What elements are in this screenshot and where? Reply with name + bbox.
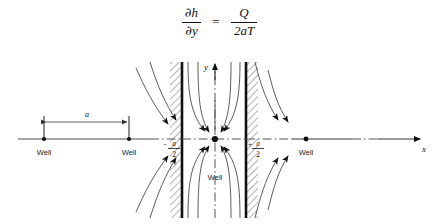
- left-boundary-numerator: a: [172, 139, 176, 148]
- well-right-image-label: Well: [299, 148, 314, 157]
- well-marker-dot: [127, 137, 131, 141]
- well-marker-dot: [42, 137, 46, 141]
- flow-line-right-exterior-upper-1: [255, 62, 278, 120]
- well-marker-dot: [304, 137, 309, 142]
- well-left-inner-label: Well: [122, 148, 137, 157]
- flow-line-right-exterior-lower-2: [268, 156, 288, 210]
- dimension-a: a: [44, 110, 129, 139]
- left-boundary-denominator: 2: [172, 150, 176, 159]
- flow-line-interior-upper-right-2: [221, 62, 231, 132]
- right-exterior-flow-lines: [255, 62, 288, 218]
- flow-line-interior-upper-left-2: [198, 62, 209, 132]
- flow-line-interior-lower-left-2: [198, 146, 209, 218]
- dimension-a-label: a: [85, 110, 89, 119]
- y-axis-label: y: [203, 62, 208, 72]
- well-right-image: Well: [299, 137, 314, 157]
- well-marker-dot: [212, 136, 218, 142]
- right-boundary-sign: +: [248, 140, 252, 149]
- right-boundary-denominator: 2: [256, 150, 260, 159]
- well-left-inner: Well: [122, 137, 137, 157]
- well-left-image-label: Well: [37, 148, 52, 157]
- flow-net-diagram: x y: [0, 0, 439, 224]
- flow-line-interior-lower-right-2: [221, 146, 231, 218]
- flow-line-interior-upper-right-1: [224, 62, 240, 131]
- well-left-image: Well: [37, 137, 52, 157]
- flow-line-right-exterior-lower-1: [255, 158, 278, 218]
- flow-line-right-exterior-upper-2: [268, 70, 288, 122]
- left-boundary-sign: -: [164, 140, 167, 149]
- figure-canvas: ∂h ∂y = Q 2aT: [0, 0, 439, 224]
- right-boundary-numerator: a: [256, 139, 260, 148]
- flow-line-left-exterior-lower-2: [136, 156, 168, 212]
- x-axis-label: x: [421, 144, 426, 154]
- flow-line-interior-lower-left-1: [188, 147, 205, 218]
- flow-line-interior-upper-left-1: [188, 62, 205, 131]
- well-center-label: Well: [208, 173, 223, 182]
- flow-line-interior-lower-right-1: [224, 147, 240, 218]
